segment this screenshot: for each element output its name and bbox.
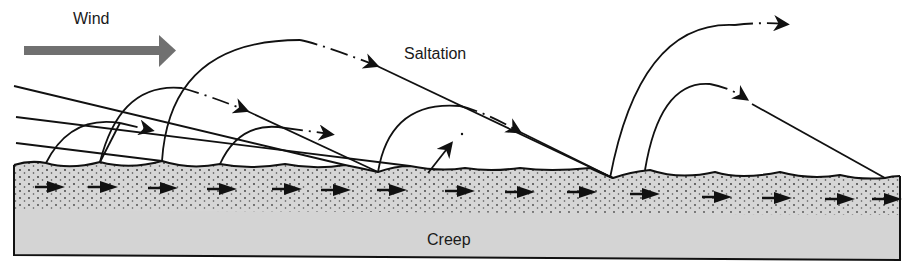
saltation-label: Saltation [404,45,466,62]
wind-direction-arrow-icon [24,35,176,67]
wind-label: Wind [73,10,109,27]
creep-label: Creep [427,231,471,248]
saltation-creep-diagram: Wind [0,0,915,280]
